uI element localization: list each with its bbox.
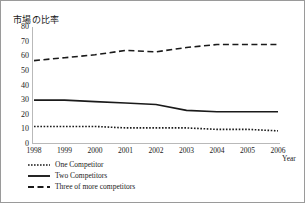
series-group [34,45,278,131]
x-tick-label: 1999 [57,147,72,155]
line-chart-svg [32,27,280,144]
series-line [34,45,278,61]
chart-figure: 市場の比率 80706050403020100 1998199920002001… [0,0,305,203]
series-line [34,100,278,112]
x-tick-label: 2004 [210,147,225,155]
x-tick-label: 2005 [240,147,255,155]
series-line [34,126,278,130]
legend-item-three-or-more-competitors: Three of more competitors [28,181,135,192]
y-tick-label: 30 [11,96,29,104]
legend-item-two-competitors: Two Competitors [28,170,135,181]
x-axis-label: Year [282,154,296,163]
legend-label: Two Competitors [55,171,107,180]
chart-legend: One Competitor Two Competitors Three of … [28,159,135,192]
plot-area: 80706050403020100 1998199920002001200220… [32,27,280,144]
x-tick-label: 2003 [179,147,194,155]
x-tick-label: 2000 [88,147,103,155]
x-tick-label: 1998 [27,147,42,155]
y-tick-label: 60 [11,52,29,60]
legend-label: One Competitor [55,160,104,169]
x-tick-label: 2001 [118,147,133,155]
legend-label: Three of more competitors [55,182,135,191]
y-tick-label: 20 [11,111,29,119]
solid-line-key [28,171,50,180]
y-tick-label: 70 [11,38,29,46]
y-tick-label: 10 [11,125,29,133]
legend-item-one-competitor: One Competitor [28,159,135,170]
x-tick-label: 2002 [149,147,164,155]
y-tick-label: 80 [11,23,29,31]
y-tick-label: 40 [11,82,29,90]
dashed-line-key [28,182,50,191]
dotted-line-key [28,160,50,169]
y-tick-label: 50 [11,67,29,75]
